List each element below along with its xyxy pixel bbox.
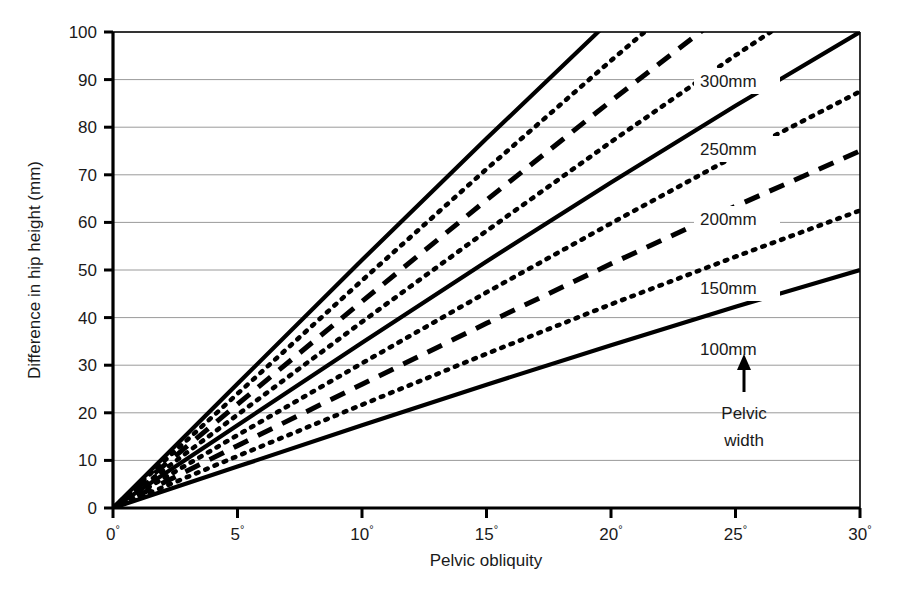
y-tick-label-30: 30 (78, 356, 97, 375)
pelvic-width-caption-line1: Pelvic (721, 404, 767, 423)
series-label-100mm: 100mm (700, 340, 757, 359)
y-tick-label-60: 60 (78, 213, 97, 232)
y-tick-label-20: 20 (78, 404, 97, 423)
y-tick-label-50: 50 (78, 261, 97, 280)
pelvic-obliquity-nomogram: 0102030405060708090100 0°5°10°15°20°25°3… (0, 0, 919, 596)
y-tick-label-80: 80 (78, 118, 97, 137)
y-tick-label-40: 40 (78, 309, 97, 328)
y-tick-label-70: 70 (78, 166, 97, 185)
series-label-250mm: 250mm (700, 140, 757, 159)
y-tick-label-0: 0 (88, 499, 97, 518)
series-label-300mm: 300mm (700, 72, 757, 91)
x-axis-title: Pelvic obliquity (430, 551, 543, 570)
y-tick-label-100: 100 (69, 23, 97, 42)
y-tick-label-10: 10 (78, 451, 97, 470)
y-axis-title: Difference in hip height (mm) (25, 161, 44, 379)
chart-container: 0102030405060708090100 0°5°10°15°20°25°3… (0, 0, 919, 596)
pelvic-width-caption-line2: width (723, 431, 764, 450)
series-label-150mm: 150mm (700, 279, 757, 298)
series-label-200mm: 200mm (700, 210, 757, 229)
y-tick-label-90: 90 (78, 71, 97, 90)
